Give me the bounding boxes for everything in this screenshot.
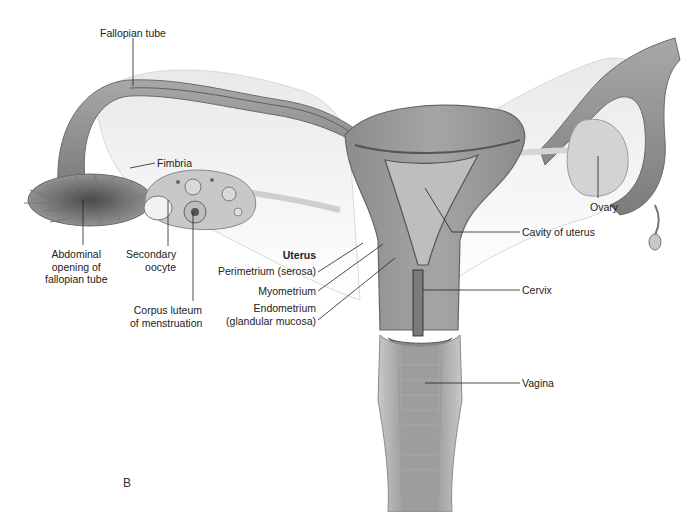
uterus-anatomy-figure: Fallopian tube Fimbria Abdominal opening…	[0, 0, 693, 512]
panel-letter: B	[123, 476, 131, 490]
label-line: (glandular mucosa)	[210, 315, 316, 328]
label-cervix: Cervix	[522, 284, 552, 297]
label-fimbria: Fimbria	[157, 157, 192, 170]
label-line: Corpus luteum	[130, 304, 202, 317]
label-line: Endometrium	[210, 302, 316, 315]
label-cavity-of-uterus: Cavity of uterus	[522, 226, 595, 239]
label-perimetrium: Perimetrium (serosa)	[210, 265, 316, 278]
ovary-left	[144, 170, 256, 230]
vagina	[378, 335, 462, 512]
label-vagina: Vagina	[522, 377, 554, 390]
label-endometrium: Endometrium (glandular mucosa)	[210, 302, 316, 327]
label-secondary-oocyte: Secondary oocyte	[126, 248, 176, 273]
label-abdominal-opening: Abdominal opening of fallopian tube	[45, 248, 107, 286]
label-uterus-heading: Uterus	[250, 249, 316, 262]
label-line: Secondary	[126, 248, 176, 261]
label-corpus-luteum: Corpus luteum of menstruation	[130, 304, 202, 329]
label-line: oocyte	[126, 261, 176, 274]
fimbria-left	[24, 174, 152, 226]
label-fallopian-tube: Fallopian tube	[100, 27, 166, 40]
label-line: opening of	[45, 261, 107, 274]
label-myometrium: Myometrium	[210, 285, 316, 298]
cervical-canal	[413, 270, 423, 336]
label-line: of menstruation	[130, 317, 202, 330]
label-ovary: Ovary	[590, 201, 618, 214]
label-line: fallopian tube	[45, 273, 107, 286]
label-line: Abdominal	[45, 248, 107, 261]
